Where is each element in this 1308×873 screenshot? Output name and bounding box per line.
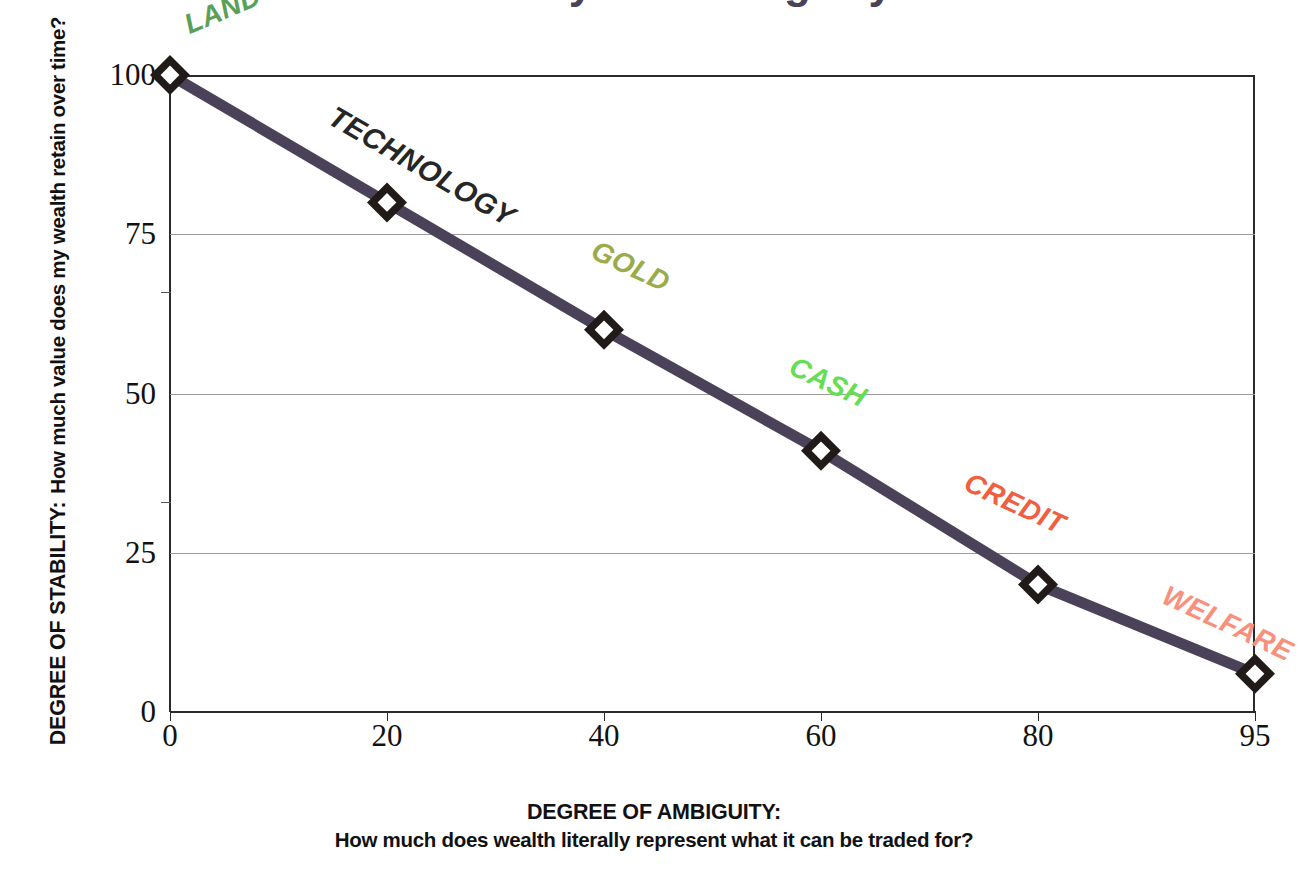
x-tick-label-40: 40 bbox=[589, 718, 620, 754]
data-series-line bbox=[170, 75, 1255, 712]
x-tick-label-60: 60 bbox=[806, 718, 837, 754]
chart-figure: DEGREE OF STABILITY: How much value does… bbox=[0, 0, 1308, 873]
x-tick-label-80: 80 bbox=[1023, 718, 1054, 754]
plot-area bbox=[170, 75, 1255, 712]
x-axis-title: DEGREE OF AMBIGUITY: How much does wealt… bbox=[0, 800, 1308, 852]
x-axis-title-line2: How much does wealth literally represent… bbox=[0, 828, 1308, 852]
annotation-land: LAND bbox=[180, 0, 266, 41]
y-tick-label-50: 50 bbox=[125, 376, 156, 412]
x-tick-labels: 02040608095 bbox=[170, 718, 1255, 762]
y-tick-label-75: 75 bbox=[125, 216, 156, 252]
x-tick-label-95: 95 bbox=[1240, 718, 1271, 754]
y-tick-label-100: 100 bbox=[110, 57, 157, 93]
stability-line bbox=[170, 75, 1255, 674]
y-tick-labels: 1007550250 bbox=[60, 75, 156, 712]
y-tick-label-0: 0 bbox=[141, 694, 157, 730]
y-tick-label-25: 25 bbox=[125, 535, 156, 571]
x-tick-label-0: 0 bbox=[162, 718, 178, 754]
x-tick-label-20: 20 bbox=[372, 718, 403, 754]
data-point-markers bbox=[150, 55, 1275, 694]
x-axis-title-line1: DEGREE OF AMBIGUITY: bbox=[0, 800, 1308, 825]
